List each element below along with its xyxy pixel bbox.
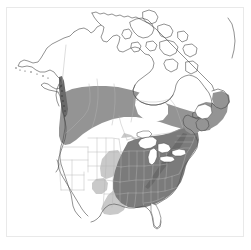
north-america-range-map bbox=[0, 0, 251, 250]
shade-core-range-east bbox=[113, 114, 205, 208]
range-map-figure bbox=[0, 0, 251, 250]
florida-unshaded bbox=[151, 203, 161, 228]
